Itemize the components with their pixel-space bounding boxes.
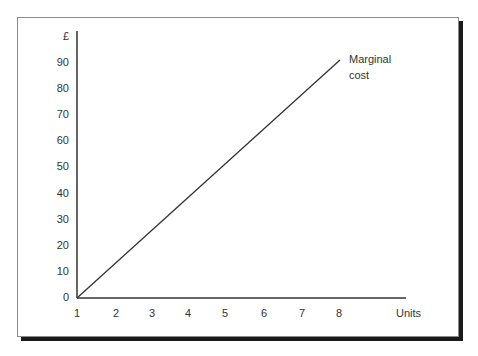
- y-tick-label: 40: [45, 187, 69, 199]
- marginal-cost-line: [77, 60, 340, 298]
- y-tick-label: 60: [45, 134, 69, 146]
- x-unit-label: Units: [396, 307, 421, 319]
- x-tick-label: 7: [292, 307, 312, 319]
- x-tick-label: 8: [329, 307, 349, 319]
- x-tick-label: 5: [215, 307, 235, 319]
- chart-plot: [0, 0, 478, 356]
- y-unit-label: £: [45, 30, 69, 42]
- y-tick-label: 0: [45, 291, 69, 303]
- x-tick-label: 4: [178, 307, 198, 319]
- x-tick-label: 3: [142, 307, 162, 319]
- y-tick-label: 70: [45, 108, 69, 120]
- y-tick-label: 80: [45, 82, 69, 94]
- y-tick-label: 90: [45, 56, 69, 68]
- y-tick-label: 50: [45, 160, 69, 172]
- x-tick-label: 2: [106, 307, 126, 319]
- annotation-line-2: cost: [349, 67, 391, 83]
- y-tick-label: 20: [45, 239, 69, 251]
- x-tick-label: 6: [254, 307, 274, 319]
- annotation-line-1: Marginal: [349, 51, 391, 67]
- series-annotation: Marginal cost: [349, 51, 391, 83]
- x-tick-label: 1: [67, 307, 87, 319]
- y-tick-label: 10: [45, 265, 69, 277]
- y-tick-label: 30: [45, 213, 69, 225]
